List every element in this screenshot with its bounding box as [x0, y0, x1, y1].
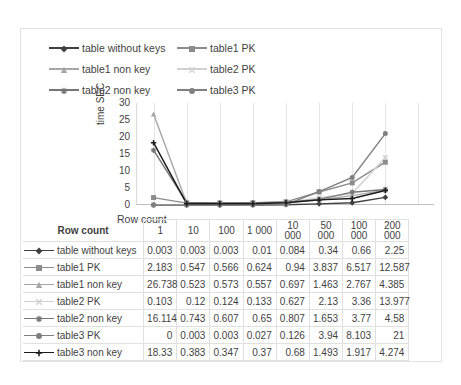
- table-row: table without keys 0.0030.0030.0030.010.…: [23, 242, 439, 259]
- series-name-label: table3 PK: [57, 330, 100, 341]
- row-count-header: Row count: [23, 220, 144, 242]
- y-tick-label: 10: [119, 166, 130, 176]
- plot-wrapper: time SEC 302520151050 Row count: [96, 103, 434, 215]
- y-axis-title: time SEC: [95, 83, 106, 125]
- series-layer: [137, 103, 435, 205]
- series-name-cell: table without keys: [23, 242, 144, 259]
- data-cell: 2.767: [343, 276, 376, 293]
- legend-item[interactable]: table without keys: [49, 37, 177, 58]
- data-cell: 4.385: [376, 276, 409, 293]
- data-cell: 26.738: [144, 276, 177, 293]
- data-point-asterisk: [350, 189, 355, 194]
- row-triangle-icon: [24, 279, 54, 290]
- series-name-cell: table2 non key: [23, 310, 144, 327]
- chart-legend: table without keys table1 PK table1 non …: [49, 37, 429, 100]
- y-axis-ticks: 302520151050: [108, 98, 130, 210]
- series-name-label: table3 non key: [57, 347, 122, 358]
- data-cell: 0.557: [243, 276, 276, 293]
- data-point-square: [151, 195, 156, 200]
- data-cell: 2.13: [309, 293, 342, 310]
- row-spacer-cell: [409, 327, 439, 344]
- data-cell: 0.126: [276, 327, 309, 344]
- table-row: table3 non key 18.330.3830.3470.370.681.…: [23, 344, 439, 361]
- column-header: 10: [177, 220, 210, 242]
- table-row: table1 PK 2.1830.5470.5660.6240.943.8376…: [23, 259, 439, 276]
- legend-item[interactable]: table2 PK: [177, 58, 305, 79]
- data-cell: 0.743: [177, 310, 210, 327]
- chart-data-table: Row count 1101001 0001000050000100000200…: [23, 219, 439, 361]
- data-cell: 0.003: [210, 242, 243, 259]
- series-name-cell: table2 PK: [23, 293, 144, 310]
- y-tick-label: 25: [119, 115, 130, 125]
- plot-area: Row count: [136, 103, 434, 205]
- legend-item[interactable]: table2 non key: [49, 79, 177, 100]
- data-cell: 3.94: [309, 327, 342, 344]
- data-cell: 12.587: [376, 259, 409, 276]
- data-cell: 0.807: [276, 310, 309, 327]
- legend-item-label: table without keys: [82, 42, 165, 54]
- series-name-label: table1 PK: [57, 262, 100, 273]
- legend-item-label: table1 PK: [210, 42, 256, 54]
- series-name-label: table2 non key: [57, 313, 122, 324]
- chart-object: table without keys table1 PK table1 non …: [20, 28, 442, 362]
- data-cell: 0.12: [177, 293, 210, 310]
- data-cell: 2.183: [144, 259, 177, 276]
- legend-item[interactable]: table3 PK: [177, 79, 305, 100]
- row-spacer-cell: [409, 276, 439, 293]
- column-header: 1: [144, 220, 177, 242]
- data-cell: 0.003: [210, 327, 243, 344]
- data-point-diamond: [382, 194, 388, 200]
- column-header-spacer: [409, 220, 439, 242]
- data-cell: 0.65: [243, 310, 276, 327]
- row-asterisk-icon: [24, 313, 54, 324]
- data-point-plus: [151, 140, 156, 145]
- row-spacer-cell: [409, 293, 439, 310]
- y-tick-label: 20: [119, 132, 130, 142]
- data-cell: 0.027: [243, 327, 276, 344]
- row-spacer-cell: [409, 242, 439, 259]
- series-name-cell: table1 non key: [23, 276, 144, 293]
- row-spacer-cell: [409, 344, 439, 361]
- data-cell: 0.01: [243, 242, 276, 259]
- data-cell: 0.133: [243, 293, 276, 310]
- column-header: 1 000: [243, 220, 276, 242]
- table-row: table1 non key 26.7380.5230.5730.5570.69…: [23, 276, 439, 293]
- column-header: 10000: [276, 220, 309, 242]
- data-cell: 2.25: [376, 242, 409, 259]
- data-cell: 0.607: [210, 310, 243, 327]
- data-point-circle: [350, 175, 355, 180]
- data-cell: 0.68: [276, 344, 309, 361]
- data-cell: 18.33: [144, 344, 177, 361]
- y-tick-label: 5: [124, 183, 130, 193]
- data-cell: 0.523: [177, 276, 210, 293]
- data-cell: 1.493: [309, 344, 342, 361]
- data-cell: 3.77: [343, 310, 376, 327]
- data-cell: 1.653: [309, 310, 342, 327]
- table-header-row: Row count 1101001 0001000050000100000200…: [23, 220, 439, 242]
- legend-diamond-icon: [49, 42, 79, 53]
- series-name-label: table2 PK: [57, 296, 100, 307]
- data-point-square: [383, 160, 388, 165]
- data-cell: 0.003: [144, 242, 177, 259]
- data-cell: 0.573: [210, 276, 243, 293]
- data-cell: 0.66: [343, 242, 376, 259]
- data-cell: 0.103: [144, 293, 177, 310]
- data-cell: 0.34: [309, 242, 342, 259]
- legend-item-label: table1 non key: [82, 63, 150, 75]
- column-header: 100000: [343, 220, 376, 242]
- row-circle-icon: [24, 330, 54, 341]
- row-plus-icon: [24, 347, 54, 358]
- legend-item-label: table2 non key: [82, 84, 150, 96]
- table-row: table3 PK 00.0030.0030.0270.1263.948.103…: [23, 327, 439, 344]
- data-cell: 0.003: [177, 327, 210, 344]
- table-body: table without keys 0.0030.0030.0030.010.…: [23, 242, 439, 361]
- legend-item[interactable]: table1 PK: [177, 37, 305, 58]
- column-header: 200000: [376, 220, 409, 242]
- legend-item[interactable]: table1 non key: [49, 58, 177, 79]
- data-cell: 16.114: [144, 310, 177, 327]
- data-cell: 0.697: [276, 276, 309, 293]
- legend-cross-icon: [177, 63, 207, 74]
- data-cell: 0.084: [276, 242, 309, 259]
- row-spacer-cell: [409, 259, 439, 276]
- legend-asterisk-icon: [49, 84, 79, 95]
